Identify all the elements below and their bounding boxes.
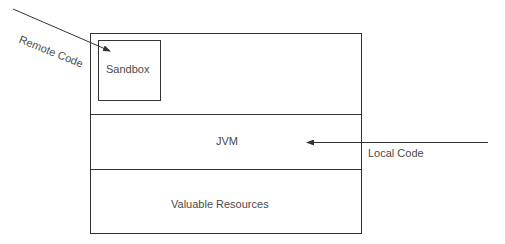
resources-label: Valuable Resources — [171, 198, 269, 210]
jvm-label: JVM — [216, 135, 238, 147]
local-code-label: Local Code — [368, 147, 424, 159]
sandbox-label: Sandbox — [106, 63, 149, 75]
